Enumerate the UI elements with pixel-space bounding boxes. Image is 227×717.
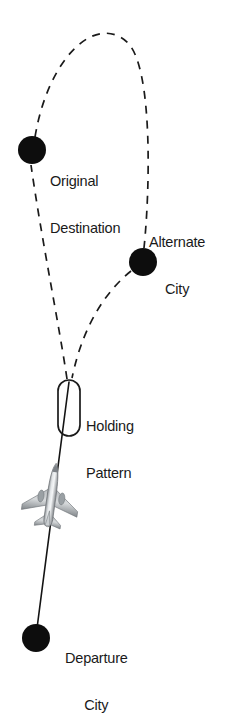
node-departure-city bbox=[22, 624, 50, 652]
holding-pattern-shape bbox=[58, 380, 80, 436]
route-alternate-city-to-holding bbox=[72, 271, 131, 378]
node-alternate-city bbox=[129, 248, 157, 276]
node-original-destination bbox=[18, 136, 46, 164]
airplane-icon bbox=[19, 459, 83, 531]
route-holding-to-original-destination bbox=[31, 165, 67, 379]
label-departure-city-line2: City bbox=[65, 698, 128, 714]
route-original-destination-to-alternate-city bbox=[35, 33, 148, 248]
